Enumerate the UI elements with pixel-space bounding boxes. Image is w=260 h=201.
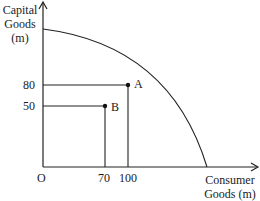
y-axis-label-line3: (m) — [0, 31, 40, 45]
tick-y-50: 50 — [23, 99, 35, 113]
point-b-marker — [103, 104, 107, 108]
tick-x-100: 100 — [119, 171, 137, 185]
point-b-label: B — [111, 100, 119, 114]
ppf-curve — [43, 29, 207, 167]
tick-x-70: 70 — [98, 171, 110, 185]
y-axis-label-line1: Capital — [0, 3, 40, 17]
x-axis-label-line2: Goods (m) — [200, 187, 260, 201]
point-a-marker — [126, 83, 130, 87]
y-axis-label: Capital Goods (m) — [0, 3, 40, 45]
origin-label: O — [37, 171, 46, 185]
point-a-label: A — [134, 77, 143, 91]
x-axis-label: Consumer Goods (m) — [200, 173, 260, 201]
tick-y-80: 80 — [23, 78, 35, 92]
y-axis-label-line2: Goods — [0, 17, 40, 31]
x-axis-label-line1: Consumer — [200, 173, 260, 187]
